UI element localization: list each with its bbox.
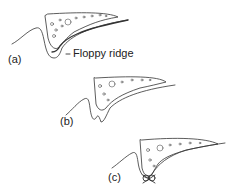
floppy-ridge-annotation: Floppy ridge bbox=[73, 47, 134, 59]
figure-b-drawing bbox=[66, 77, 175, 122]
figure-c-label: (c) bbox=[108, 171, 121, 183]
figure-c-drawing bbox=[112, 138, 225, 183]
ridge-diagram bbox=[0, 0, 232, 194]
figure-b-label: (b) bbox=[60, 115, 73, 127]
figure-a-label: (a) bbox=[8, 53, 21, 65]
